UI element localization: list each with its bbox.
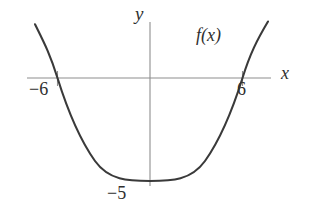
function-label: f(x) [196,26,221,44]
parabola-figure: y x f(x) −6 6 −5 [0,0,313,215]
x-intercept-label-negative-six: −6 [29,80,48,98]
plot-canvas [0,0,313,215]
y-axis-label: y [135,4,143,23]
x-axis-label: x [281,64,289,82]
vertex-label-negative-five: −5 [107,184,126,202]
parabola-curve [35,22,268,182]
x-intercept-label-positive-six: 6 [237,80,246,98]
